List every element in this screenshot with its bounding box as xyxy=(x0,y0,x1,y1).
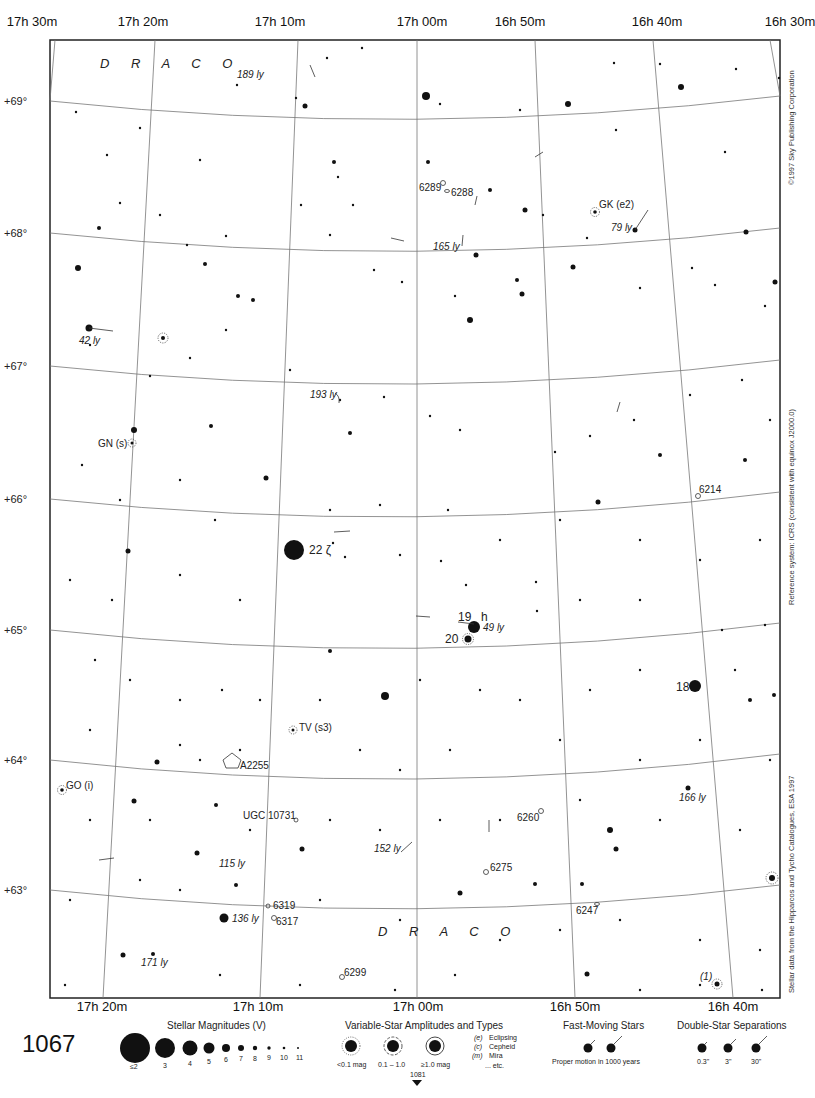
distance-label: 152 ly xyxy=(374,843,401,854)
magnitude-step: 4 xyxy=(188,1060,192,1067)
reference-system-text: Reference system: ICRS (consistent with … xyxy=(787,409,796,605)
ra-label-top: 17h 30m xyxy=(7,14,58,29)
double-star-symbols xyxy=(690,1035,780,1057)
distance-label: 171 ly xyxy=(141,957,168,968)
magnitude-step: 11 xyxy=(296,1054,303,1061)
star-label-zeta: 22 ζ xyxy=(309,543,331,557)
variable-label-gk: GK (e2) xyxy=(599,199,634,210)
ra-label-top: 17h 10m xyxy=(255,14,306,29)
deep-sky-objects xyxy=(223,181,701,980)
star-label-18: 18 xyxy=(676,680,689,694)
ra-label-top: 16h 30m xyxy=(765,14,815,29)
next-page-reference[interactable]: 1081 xyxy=(410,1071,426,1078)
stellar-data-source-text: Stellar data from the Hipparcos and Tych… xyxy=(787,776,796,994)
magnitude-scale-dots xyxy=(115,1030,315,1070)
type-name: Cepheid xyxy=(489,1043,515,1050)
distance-label: 193 ly xyxy=(310,389,337,400)
distance-label: 79 ly xyxy=(611,222,632,233)
distance-label: 115 ly xyxy=(219,858,245,869)
ra-label-top: 17h 00m xyxy=(397,14,448,29)
legend-variables-title: Variable-Star Amplitudes and Types xyxy=(345,1020,503,1031)
star-label-19: 19 xyxy=(458,610,471,624)
copyright-text: ©1997 Sky Publishing Corporation xyxy=(787,70,796,185)
magnitude-step: 8 xyxy=(253,1055,257,1062)
type-code: (e) xyxy=(474,1034,483,1041)
type-name: ... etc. xyxy=(485,1062,504,1069)
chart-frame xyxy=(50,40,780,998)
magnitude-step: 3 xyxy=(163,1062,167,1069)
type-name: Mira xyxy=(489,1052,503,1059)
ra-label-bottom: 17h 10m xyxy=(233,999,284,1014)
dec-label: +63° xyxy=(4,884,27,896)
right-ascension-grid xyxy=(50,40,780,998)
ra-label-bottom: 17h 20m xyxy=(77,999,128,1014)
dso-label-ugc10731: UGC 10731 xyxy=(243,810,296,821)
distance-label: 165 ly xyxy=(433,241,460,252)
dec-label: +65° xyxy=(4,624,27,636)
distance-label: 136 ly xyxy=(232,913,259,924)
magnitude-step: 6 xyxy=(224,1056,228,1063)
distance-label: 42 ly xyxy=(79,335,100,346)
type-code: (m) xyxy=(472,1052,483,1059)
page-number: 1067 xyxy=(22,1030,75,1058)
variable-label-tv: TV (s3) xyxy=(299,722,332,733)
ra-label-top: 16h 40m xyxy=(632,14,683,29)
dec-label: +64° xyxy=(4,754,27,766)
dso-label-6319: 6319 xyxy=(273,900,295,911)
separation-label: 0.3" xyxy=(697,1058,709,1065)
stars xyxy=(75,84,778,987)
declination-grid xyxy=(50,96,780,909)
dso-label-6288: 6288 xyxy=(451,187,473,198)
dso-label-6299: 6299 xyxy=(344,967,366,978)
type-name: Eclipsing xyxy=(489,1034,517,1041)
ra-label-bottom: 16h 40m xyxy=(708,999,759,1014)
constellation-label-draco: D R A C O xyxy=(100,56,241,71)
amplitude-label: 0.1 – 1.0 xyxy=(378,1061,405,1068)
amplitude-label: <0.1 mag xyxy=(337,1061,366,1068)
dso-label-6214: 6214 xyxy=(699,484,721,495)
variable-label-go: GO (i) xyxy=(66,780,93,791)
dso-label-a2255: A2255 xyxy=(240,760,269,771)
distance-label: 166 ly xyxy=(679,792,706,803)
magnitude-step: 5 xyxy=(207,1058,211,1065)
legend-doubles-title: Double-Star Separations xyxy=(677,1020,787,1031)
dso-label-6275: 6275 xyxy=(490,862,512,873)
magnitude-step: 10 xyxy=(280,1054,288,1061)
ra-label-top: 16h 50m xyxy=(495,14,546,29)
fast-moving-symbols xyxy=(580,1032,640,1056)
constellation-label-draco: D R A C O xyxy=(378,924,519,939)
page-pointer-icon xyxy=(412,1080,422,1086)
dso-label-6247: 6247 xyxy=(576,905,598,916)
dso-label-6317: 6317 xyxy=(276,916,298,927)
distance-label: 189 ly xyxy=(237,69,264,80)
dec-label: +66° xyxy=(4,493,27,505)
dec-label: +68° xyxy=(4,227,27,239)
variable-amplitude-symbols xyxy=(335,1035,455,1061)
separation-label: 30" xyxy=(751,1058,761,1065)
magnitude-step: ≤2 xyxy=(130,1063,138,1070)
dec-label: +69° xyxy=(4,95,27,107)
separation-label: 3" xyxy=(725,1058,731,1065)
dso-label-6260: 6260 xyxy=(517,812,539,823)
legend-fast-moving-title: Fast-Moving Stars xyxy=(563,1020,644,1031)
variable-label-gn: GN (s) xyxy=(98,438,127,449)
distance-label: 49 ly xyxy=(483,622,504,633)
variable-label-1: (1) xyxy=(700,971,712,982)
magnitude-step: 9 xyxy=(267,1054,271,1061)
dec-label: +67° xyxy=(4,360,27,372)
variable-star-rings xyxy=(58,208,779,990)
magnitude-step: 7 xyxy=(239,1055,243,1062)
amplitude-label: ≥1.0 mag xyxy=(421,1061,450,1068)
dso-label-6289: 6289 xyxy=(419,182,441,193)
star-label-20: 20 xyxy=(445,632,458,646)
ra-label-bottom: 16h 50m xyxy=(550,999,601,1014)
type-code: (c) xyxy=(474,1043,482,1050)
ra-label-bottom: 17h 00m xyxy=(393,999,444,1014)
ra-label-top: 17h 20m xyxy=(118,14,169,29)
fast-moving-caption: Proper motion in 1000 years xyxy=(552,1058,640,1065)
